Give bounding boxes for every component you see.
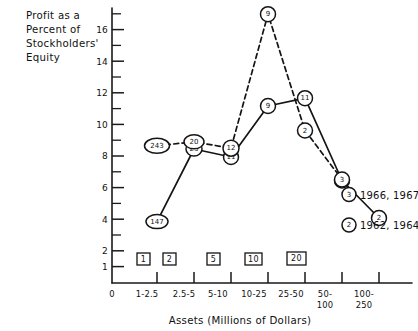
x-tick-label-50-100-line-2: 100 — [317, 300, 334, 310]
y-tick-label-6: 6 — [102, 183, 108, 193]
data-point: 3 — [335, 172, 350, 187]
series-line-1962-1964 — [157, 98, 379, 221]
data-point-label: 243 — [150, 142, 163, 150]
data-point-label: 11 — [301, 94, 310, 102]
y-axis-ticks: 16 14 12 10 8 6 — [96, 14, 124, 272]
x-tick-label-5-10: 5-10 — [208, 289, 228, 299]
data-point: 147 — [146, 215, 168, 229]
y-tick-label-4: 4 — [102, 215, 108, 225]
box-annotation-2: 2 — [163, 253, 176, 265]
box-annotation-5-label: 5 — [211, 255, 216, 264]
data-point: 12 — [223, 140, 239, 156]
box-annotations: 1 2 5 10 20 — [137, 252, 306, 265]
box-annotation-2-label: 2 — [167, 255, 172, 264]
chart-title: Profit as a Percent of Stockholders' Equ… — [26, 10, 99, 63]
data-point-label: 3 — [340, 176, 344, 184]
data-point-label: 12 — [227, 144, 236, 152]
data-point-label: 147 — [150, 218, 163, 226]
box-annotation-10: 10 — [245, 253, 262, 265]
chart-container: Profit as a Percent of Stockholders' Equ… — [0, 0, 418, 331]
y-tick-label-14: 14 — [96, 57, 108, 67]
x-tick-label-50-100-line-1: 50- — [318, 289, 332, 299]
series-1962-1964-points: 147 23 11 9 11 11 — [146, 91, 387, 229]
box-annotation-10-label: 10 — [248, 255, 259, 264]
title-line-3: Stockholders' — [26, 38, 99, 49]
y-tick-label-1: 1 — [102, 262, 108, 272]
data-point-label: 20 — [190, 138, 199, 146]
y-tick-label-2: 2 — [102, 246, 108, 256]
profit-vs-assets-line-chart: Profit as a Percent of Stockholders' Equ… — [0, 0, 418, 331]
legend-marker-label-1966-1967: 3 — [347, 191, 351, 199]
x-tick-label-100-250: 100- 250 — [354, 289, 374, 310]
box-annotation-20: 20 — [287, 252, 306, 265]
legend-item-1966-1967: 3 1966, 1967 — [342, 188, 418, 202]
y-tick-label-16: 16 — [96, 25, 108, 35]
data-point: 9 — [261, 7, 276, 22]
y-tick-label-8: 8 — [102, 151, 108, 161]
legend-label-1962-1964: 1962, 1964 — [360, 220, 418, 231]
legend-marker-label-1962-1964: 2 — [347, 221, 351, 229]
title-line-2: Percent of — [26, 24, 81, 35]
box-annotation-20-label: 20 — [291, 254, 302, 263]
data-point: 243 — [145, 138, 170, 153]
title-line-4: Equity — [26, 52, 60, 63]
x-tick-label-100-250-line-1: 100- — [354, 289, 374, 299]
x-axis-labels: 1-2.5 2.5-5 5-10 10-25 25-50 50- 100 100… — [136, 289, 374, 310]
x-tick-label-1-2.5: 1-2.5 — [136, 289, 159, 299]
data-point-label: 2 — [303, 127, 307, 135]
box-annotation-1: 1 — [137, 253, 150, 265]
data-point: 9 — [261, 99, 276, 114]
x-tick-label-2.5-5: 2.5-5 — [173, 289, 196, 299]
series-1966-1967-points: 243 20 12 9 2 3 — [145, 7, 350, 187]
data-point: 11 — [298, 91, 313, 106]
x-tick-label-25-50: 25-50 — [278, 289, 303, 299]
legend: 3 1966, 1967 2 1962, 1964 — [342, 188, 418, 233]
data-point-label: 9 — [266, 102, 270, 110]
x-axis-origin-label: 0 — [109, 289, 115, 299]
data-point: 2 — [298, 123, 313, 138]
y-tick-label-10: 10 — [96, 120, 108, 130]
data-point: 20 — [184, 135, 204, 149]
legend-item-1962-1964: 2 1962, 1964 — [342, 218, 418, 232]
legend-label-1966-1967: 1966, 1967 — [360, 190, 418, 201]
x-tick-label-50-100: 50- 100 — [317, 289, 334, 310]
x-axis-title: Assets (Millions of Dollars) — [169, 315, 312, 326]
box-annotation-1-label: 1 — [141, 255, 146, 264]
series-line-1966-1967 — [157, 14, 342, 179]
x-tick-label-100-250-line-2: 250 — [356, 300, 373, 310]
y-tick-label-12: 12 — [96, 88, 108, 98]
x-tick-label-10-25: 10-25 — [241, 289, 266, 299]
x-axis-ticks — [157, 272, 379, 283]
data-point-label: 9 — [266, 10, 270, 18]
title-line-1: Profit as a — [26, 10, 80, 21]
box-annotation-5: 5 — [207, 253, 220, 265]
